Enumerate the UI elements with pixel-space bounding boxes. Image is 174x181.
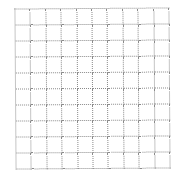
grid-cell bbox=[139, 25, 155, 41]
grid-cell bbox=[124, 137, 140, 153]
grid-cell bbox=[93, 73, 109, 89]
grid-cell bbox=[124, 105, 140, 121]
grid-cell bbox=[154, 24, 170, 40]
grid-cell bbox=[139, 57, 155, 73]
grid-cell bbox=[154, 56, 170, 72]
grid-cell bbox=[47, 153, 63, 169]
grid-cell bbox=[140, 137, 156, 153]
grid-cell bbox=[92, 9, 108, 25]
grid-cell bbox=[77, 25, 93, 41]
grid-cell bbox=[124, 153, 140, 169]
grid-cell bbox=[31, 57, 47, 73]
grid-cell bbox=[108, 41, 124, 57]
grid-cell bbox=[93, 89, 109, 105]
grid-cell bbox=[47, 105, 63, 121]
grid-cell bbox=[16, 73, 32, 89]
grid-cell bbox=[109, 105, 125, 121]
grid-cell bbox=[62, 89, 78, 105]
grid-cell bbox=[139, 73, 155, 89]
grid-cell bbox=[16, 41, 32, 57]
grid-cell bbox=[139, 41, 155, 57]
grid-cell bbox=[16, 25, 32, 41]
grid-cell bbox=[78, 153, 94, 169]
grid-cell bbox=[93, 137, 109, 153]
grid-cell bbox=[139, 121, 155, 137]
grid-cell bbox=[139, 105, 155, 121]
grid-cell bbox=[108, 9, 124, 25]
grid-cell bbox=[155, 120, 171, 136]
grid-cell bbox=[93, 153, 109, 169]
grid-cell bbox=[123, 41, 139, 57]
grid-cell bbox=[31, 89, 47, 105]
grid-cell bbox=[93, 121, 109, 137]
grid-cell bbox=[32, 153, 48, 169]
grid-cell bbox=[62, 121, 78, 137]
grid-cell bbox=[62, 105, 78, 121]
grid-cell bbox=[31, 41, 47, 57]
grid-cell bbox=[47, 73, 63, 89]
grid-cell bbox=[15, 9, 31, 25]
grid-cell bbox=[77, 57, 93, 73]
grid-cell bbox=[155, 104, 171, 120]
grid-cell bbox=[78, 89, 94, 105]
grid-cell bbox=[16, 153, 32, 169]
grid-cell bbox=[78, 105, 94, 121]
grid-cell bbox=[123, 9, 139, 25]
grid-cell bbox=[124, 121, 140, 137]
grid-cell bbox=[47, 89, 63, 105]
grid-cell bbox=[16, 137, 32, 153]
grid-cell bbox=[139, 9, 155, 25]
grid-cell bbox=[62, 57, 78, 73]
grid-cell bbox=[16, 105, 32, 121]
grid-cell bbox=[32, 105, 48, 121]
grid-cell bbox=[32, 121, 48, 137]
grid-cell bbox=[154, 40, 170, 56]
grid-cell bbox=[140, 153, 156, 169]
grid-cell bbox=[63, 137, 79, 153]
grid-cell bbox=[46, 41, 62, 57]
grid-cell bbox=[108, 73, 124, 89]
grid-cell bbox=[123, 25, 139, 41]
grid-cell bbox=[155, 152, 171, 168]
grid-cell bbox=[77, 41, 93, 57]
grid-cell bbox=[154, 8, 170, 24]
grid-cell bbox=[108, 89, 124, 105]
grid-cell bbox=[78, 137, 94, 153]
grid-cell bbox=[93, 41, 109, 57]
grid-cell bbox=[16, 57, 32, 73]
grid-cell bbox=[62, 9, 78, 25]
grid-cell bbox=[154, 72, 170, 88]
grid-cell bbox=[62, 41, 78, 57]
grid-cell bbox=[31, 25, 47, 41]
grid-cell bbox=[47, 121, 63, 137]
grid-cell bbox=[32, 137, 48, 153]
grid-cell bbox=[93, 57, 109, 73]
grid-cell bbox=[139, 89, 155, 105]
grid-cell bbox=[109, 121, 125, 137]
grid-cell bbox=[124, 73, 140, 89]
grid-cell bbox=[62, 73, 78, 89]
grid-cell bbox=[93, 105, 109, 121]
grid-cell bbox=[108, 25, 124, 41]
grid-cell bbox=[108, 57, 124, 73]
grid-cell bbox=[16, 89, 32, 105]
grid-cell bbox=[47, 137, 63, 153]
grid-cell bbox=[77, 73, 93, 89]
grid-cell bbox=[31, 9, 47, 25]
grid-cell bbox=[155, 136, 171, 152]
grid-cell bbox=[93, 25, 109, 41]
grid-cell bbox=[77, 9, 93, 25]
grid-cell bbox=[155, 88, 171, 104]
grid-cell bbox=[62, 25, 78, 41]
grid-cell bbox=[31, 73, 47, 89]
grid-cell bbox=[16, 121, 32, 137]
grid-cell bbox=[124, 89, 140, 105]
grid-cell bbox=[46, 25, 62, 41]
grid-cell bbox=[47, 57, 63, 73]
dotted-grid bbox=[14, 7, 170, 169]
grid-cell bbox=[109, 153, 125, 169]
grid-cell bbox=[63, 153, 79, 169]
grid-cell bbox=[109, 137, 125, 153]
grid-cell bbox=[78, 121, 94, 137]
grid-cell bbox=[124, 57, 140, 73]
